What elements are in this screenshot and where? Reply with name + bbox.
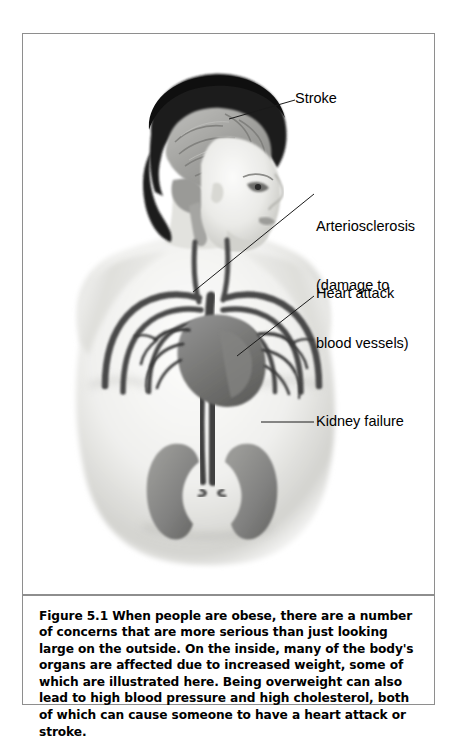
figure-caption: Figure 5.1 When people are obese, there … — [39, 608, 418, 741]
callout-label-kidney-failure: Kidney failure — [316, 412, 404, 432]
figure-caption-body: When people are obese, there are a numbe… — [39, 609, 414, 739]
callout-arteriosclerosis-line-3: blood vessels) — [316, 334, 415, 354]
callout-label-heart-attack: Heart attack — [316, 284, 394, 304]
caption-box: Figure 5.1 When people are obese, there … — [23, 596, 434, 705]
illustration-pane: Stroke Arteriosclerosis (damage to blood… — [23, 34, 434, 594]
callout-label-stroke: Stroke — [295, 89, 337, 109]
figure-caption-label: Figure 5.1 — [39, 609, 108, 623]
figure-frame: Stroke Arteriosclerosis (damage to blood… — [22, 33, 435, 705]
callout-arteriosclerosis-line-1: Arteriosclerosis — [316, 217, 415, 237]
